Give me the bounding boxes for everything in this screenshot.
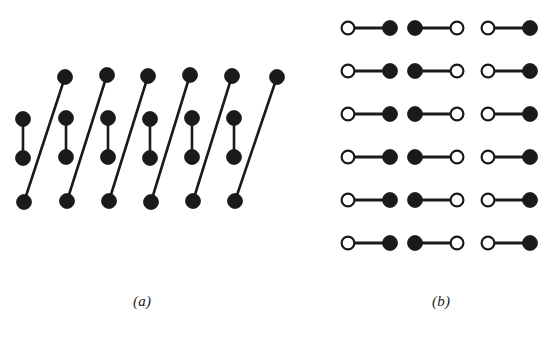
figure-root: (a) (b) (0, 0, 560, 339)
b-edge-r4c3-right-vertex (523, 150, 538, 165)
a-bottom-4 (144, 195, 159, 210)
panel-b-label: (b) (432, 293, 450, 310)
a-top-1 (58, 70, 73, 85)
b-edge-r4c1-left-vertex (342, 151, 355, 164)
b-edge-r6c1-right-vertex (383, 236, 398, 251)
b-edge-r1c1-left-vertex (342, 22, 355, 35)
b-edge-r3c3-right-vertex (523, 107, 538, 122)
b-edge-r4c2-right-vertex (451, 151, 464, 164)
b-edge-r5c2-left-vertex (408, 193, 423, 208)
b-edge-r6c1-left-vertex (342, 237, 355, 250)
b-edge-r5c1-right-vertex (383, 193, 398, 208)
b-edge-r5c2-right-vertex (451, 194, 464, 207)
a-bottom-1 (17, 195, 32, 210)
a-diagonal-edge-5 (193, 76, 232, 201)
a-mid-upper-2 (59, 111, 74, 126)
a-mid-upper-4 (143, 112, 158, 127)
b-edge-r3c3-left-vertex (482, 108, 495, 121)
b-edge-r2c1-right-vertex (383, 64, 398, 79)
b-edge-r2c1-left-vertex (342, 65, 355, 78)
a-mid-lower-5 (185, 150, 200, 165)
a-mid-upper-3 (101, 111, 116, 126)
b-edge-r1c3-right-vertex (523, 21, 538, 36)
a-diagonal-edge-4 (151, 75, 190, 202)
a-mid-lower-3 (101, 150, 116, 165)
figure-canvas (0, 0, 560, 339)
a-mid-upper-6 (227, 111, 242, 126)
a-top-3 (141, 69, 156, 84)
a-diagonal-edge-6 (235, 77, 277, 201)
b-edge-r4c3-left-vertex (482, 151, 495, 164)
b-edge-r3c2-left-vertex (408, 107, 423, 122)
b-edge-r1c2-right-vertex (451, 22, 464, 35)
b-edge-r1c2-left-vertex (408, 21, 423, 36)
b-edge-r2c2-left-vertex (408, 64, 423, 79)
a-diagonal-edge-1 (24, 77, 65, 202)
b-edge-r3c1-right-vertex (383, 107, 398, 122)
a-bottom-3 (102, 194, 117, 209)
b-edge-r2c3-right-vertex (523, 64, 538, 79)
b-edge-r6c2-left-vertex (408, 236, 423, 251)
a-mid-lower-2 (59, 150, 74, 165)
a-top-2 (100, 68, 115, 83)
b-edge-r2c3-left-vertex (482, 65, 495, 78)
b-edge-r3c2-right-vertex (451, 108, 464, 121)
panel-a-label: (a) (133, 293, 151, 310)
a-bottom-2 (60, 194, 75, 209)
b-edge-r6c3-right-vertex (523, 236, 538, 251)
b-edge-r1c1-right-vertex (383, 21, 398, 36)
a-mid-lower-6 (227, 150, 242, 165)
a-diagonal-edge-2 (67, 75, 107, 201)
a-top-5 (225, 69, 240, 84)
b-edge-r6c3-left-vertex (482, 237, 495, 250)
panel-b-graph (342, 21, 538, 251)
a-bottom-5 (186, 194, 201, 209)
b-edge-r3c1-left-vertex (342, 108, 355, 121)
b-edge-r2c2-right-vertex (451, 65, 464, 78)
a-mid-lower-4 (143, 151, 158, 166)
b-edge-r6c2-right-vertex (451, 237, 464, 250)
a-diagonal-edge-3 (109, 76, 148, 201)
b-edge-r5c3-left-vertex (482, 194, 495, 207)
a-top-4 (183, 68, 198, 83)
b-edge-r5c3-right-vertex (523, 193, 538, 208)
a-mid-upper-5 (185, 111, 200, 126)
a-top-6 (270, 70, 285, 85)
panel-a-graph (16, 68, 285, 210)
b-edge-r1c3-left-vertex (482, 22, 495, 35)
b-edge-r4c1-right-vertex (383, 150, 398, 165)
a-mid-upper-1 (16, 112, 31, 127)
b-edge-r5c1-left-vertex (342, 194, 355, 207)
a-bottom-6 (228, 194, 243, 209)
b-edge-r4c2-left-vertex (408, 150, 423, 165)
a-mid-lower-1 (16, 151, 31, 166)
